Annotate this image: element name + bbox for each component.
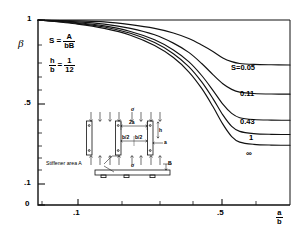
curve-label-s-1: 1 <box>249 134 253 142</box>
inset-top-stress-arrows <box>90 112 162 122</box>
equation-S-denominator: bB <box>63 42 75 50</box>
equation-S-definition: S = A bB <box>49 33 75 50</box>
inset-dim-2a-label: 2a <box>129 119 135 125</box>
inset-stress-bottom-label: σ <box>131 162 134 168</box>
equation-hb-denominator: b <box>49 66 56 74</box>
inset-bottom-stress-arrows <box>90 156 162 166</box>
x-axis-label-denominator: b <box>276 218 283 226</box>
x-axis-label: a b <box>276 209 283 226</box>
curve-label-s-0-43: 0.43 <box>240 118 255 126</box>
inset-stress-top-label: σ <box>131 106 134 112</box>
equation-S-lhs: S = <box>49 37 61 45</box>
curve-label-s-0-11: 0.11 <box>240 90 254 98</box>
equation-S-fraction: A bB <box>63 33 75 50</box>
y-tick-label-0-1: .1 <box>24 179 31 187</box>
x-tick-label-0-5: .5 <box>217 209 224 217</box>
inset-base-plate <box>95 170 170 178</box>
equation-hb-rhs-fraction: 1 12 <box>64 57 74 74</box>
curve-label-s-infinity: ∞ <box>246 150 252 158</box>
y-tick-label-1: 1 <box>27 15 31 23</box>
y-axis-label: β <box>18 38 23 49</box>
x-tick-label-0-1: .1 <box>73 209 80 217</box>
curve-group <box>38 20 290 145</box>
inset-dim-a <box>153 142 163 144</box>
figure-root: β 1 .5 .1 0 .1 .5 a b S = A bB h b = <box>0 0 308 238</box>
y-tick-label-0-5: .5 <box>24 99 31 107</box>
equation-hb-fraction: h b <box>49 57 56 74</box>
inset-dim-b-half-left-label: b/2 <box>122 134 129 140</box>
curve-0.11 <box>38 20 290 94</box>
inset-dim-h-label: h <box>159 127 162 133</box>
inset-dim-B-label: B <box>168 160 172 166</box>
curve-label-s-0-05: S=0.05 <box>231 64 255 72</box>
x-axis-ticks <box>78 199 222 205</box>
equation-hb-equals: = <box>58 61 63 69</box>
y-axis-ticks <box>38 20 45 205</box>
equation-hb-rhs-denominator: 12 <box>64 66 74 74</box>
y-tick-label-0: 0 <box>25 200 29 208</box>
curve-s-0.05 <box>38 20 290 65</box>
inset-stiffener-area-label: Stiffener area A <box>46 160 82 166</box>
equation-h-over-b: h b = 1 12 <box>49 57 75 74</box>
chart-canvas <box>0 0 308 238</box>
inset-dim-b-half-right-label: b/2 <box>135 134 142 140</box>
x-axis-label-fraction: a b <box>276 209 283 226</box>
inset-dim-a-label: a <box>164 139 167 145</box>
